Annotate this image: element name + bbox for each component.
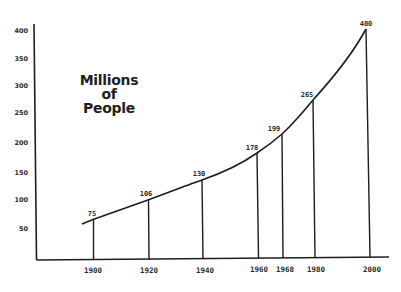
x-tick-2000: 2000 xyxy=(363,265,382,274)
data-label-1920: 106 xyxy=(140,190,153,198)
chart-title-line-1: Millions xyxy=(70,73,148,87)
population-curve xyxy=(82,29,366,224)
drop-line-1920 xyxy=(149,200,150,260)
data-label-1968: 199 xyxy=(268,125,281,133)
y-tick-350: 350 xyxy=(14,55,28,63)
data-label-1900: 75 xyxy=(88,210,96,218)
drop-line-1980 xyxy=(313,100,315,258)
x-tick-labels: 1900 1920 1940 1960 1968 1980 2000 xyxy=(84,265,382,275)
x-axis xyxy=(37,257,390,260)
y-tick-labels: 50 100 150 200 250 300 350 400 xyxy=(14,27,28,233)
drop-line-1968 xyxy=(282,134,283,258)
data-label-1980: 265 xyxy=(301,91,314,99)
chart-title-line-2: of xyxy=(70,87,148,101)
y-tick-150: 150 xyxy=(14,169,28,177)
chart-title: Millions of People xyxy=(70,73,148,115)
y-tick-100: 100 xyxy=(14,196,28,204)
data-label-1960: 178 xyxy=(246,144,259,152)
drop-line-1940 xyxy=(202,180,203,259)
data-label-1940: 130 xyxy=(193,170,206,178)
y-tick-50: 50 xyxy=(19,225,29,233)
data-labels: 75 106 130 178 199 265 400 xyxy=(88,20,373,218)
data-label-2000: 400 xyxy=(360,20,373,28)
x-tick-1940: 1940 xyxy=(196,266,215,275)
chart-title-line-3: People xyxy=(70,101,148,115)
x-tick-1920: 1920 xyxy=(140,266,159,275)
x-tick-1968: 1968 xyxy=(276,265,295,274)
population-chart: 50 100 150 200 250 300 350 400 75 106 13… xyxy=(0,0,401,292)
y-tick-300: 300 xyxy=(14,82,28,90)
y-tick-250: 250 xyxy=(14,109,28,117)
drop-lines xyxy=(94,29,371,260)
y-axis xyxy=(34,24,37,260)
drop-line-2000 xyxy=(366,29,370,257)
x-tick-1960: 1960 xyxy=(250,265,269,274)
y-tick-400: 400 xyxy=(14,27,28,35)
drop-line-1960 xyxy=(257,153,259,259)
y-tick-200: 200 xyxy=(14,139,28,147)
x-tick-1900: 1900 xyxy=(84,266,103,275)
x-tick-1980: 1980 xyxy=(307,265,326,274)
